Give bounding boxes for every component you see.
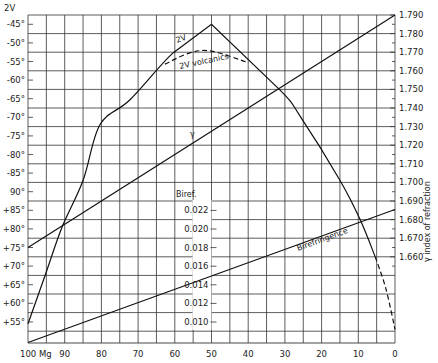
left-tick-label: -70° [7, 112, 25, 122]
left-tick-label: -55° [7, 57, 25, 67]
left-tick-label: +80° [3, 224, 25, 234]
inner-tick-label: 0.018 [184, 243, 208, 253]
left-tick-label: +70° [3, 261, 25, 271]
series-label-gamma: γ [190, 130, 195, 139]
series-2v-extrapolated [375, 257, 395, 330]
left-tick-label: 90° [10, 187, 25, 197]
inner-axis-title: Biref. [176, 190, 197, 199]
x-tick-label: 10 [353, 349, 364, 359]
left-axis-title: 2V [4, 3, 15, 13]
inner-tick-label: 0.022 [184, 205, 208, 215]
x-tick-label: 30 [279, 349, 290, 359]
left-tick-label: -75° [7, 131, 25, 141]
right-tick-label: 1.710 [399, 159, 423, 169]
x-tick-label: 100 Mg [20, 349, 52, 359]
x-tick-label: 20 [316, 349, 327, 359]
x-tick-label: 50 [206, 349, 217, 359]
inner-tick-label: 0.012 [184, 298, 208, 308]
right-tick-label: 1.760 [399, 66, 423, 76]
left-tick-label: +60° [3, 298, 25, 308]
right-tick-label: 1.670 [399, 233, 423, 243]
right-tick-label: 1.680 [399, 215, 423, 225]
inner-tick-label: 0.016 [184, 261, 208, 271]
left-tick-label: -50° [7, 38, 25, 48]
x-tick-label: 80 [96, 349, 107, 359]
left-tick-label: +65° [3, 280, 25, 290]
x-tick-label: 70 [133, 349, 144, 359]
left-tick-label: -45° [7, 19, 25, 29]
left-tick-label: -80° [7, 150, 25, 160]
right-tick-label: 1.700 [399, 177, 423, 187]
right-tick-label: 1.790 [399, 10, 423, 20]
x-tick-label: 60 [169, 349, 180, 359]
left-tick-label: +55° [3, 317, 25, 327]
chart: 100 Mg9080706050403020100-45°-50°-55°-60… [0, 0, 438, 363]
right-tick-label: 1.770 [399, 47, 423, 57]
x-tick-label: 40 [243, 349, 254, 359]
left-tick-label: +75° [3, 243, 25, 253]
right-axis-title: γ index of refraction [423, 181, 432, 262]
right-tick-label: 1.720 [399, 140, 423, 150]
inner-tick-label: 0.010 [184, 317, 208, 327]
left-tick-label: -60° [7, 75, 25, 85]
right-tick-label: 1.750 [399, 84, 423, 94]
right-tick-label: 1.740 [399, 103, 423, 113]
series-label-2v-volcanics: 2V volcanics [179, 52, 230, 71]
left-tick-label: +85° [3, 205, 25, 215]
x-tick-label: 90 [59, 349, 70, 359]
left-tick-label: -85° [7, 168, 25, 178]
right-tick-label: 1.690 [399, 196, 423, 206]
right-tick-label: 1.780 [399, 29, 423, 39]
right-tick-label: 1.660 [399, 252, 423, 262]
right-tick-label: 1.730 [399, 122, 423, 132]
x-tick-label: 0 [392, 349, 397, 359]
inner-tick-label: 0.020 [184, 224, 208, 234]
labels-layer: 2V γ index of refraction Biref. 2V 2V vo… [4, 3, 432, 262]
left-tick-label: -65° [7, 94, 25, 104]
